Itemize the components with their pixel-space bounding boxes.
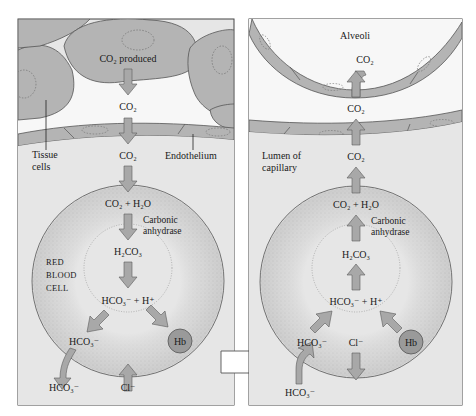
- co2-transport-diagram: Hb CO₂ produced CO₂ CO₂ Tissue cells End…: [0, 0, 476, 416]
- alveoli-label: Alveoli: [340, 30, 370, 41]
- chloride-label: Cl⁻: [121, 382, 136, 393]
- enzyme-label: Carbonic: [371, 216, 406, 226]
- reaction-label: CO₂ + H₂O: [333, 199, 379, 210]
- tissue-cells-label-2: cells: [32, 161, 50, 172]
- dissociation-label: HCO₃⁻ + H⁺: [101, 295, 154, 306]
- co2-label: CO₂: [119, 101, 136, 112]
- lumen-label: Lumen of: [262, 150, 302, 161]
- tissue-panel: Hb CO₂ produced CO₂ CO₂ Tissue cells End…: [12, 19, 234, 405]
- co2-label: CO₂: [119, 150, 136, 161]
- rbc-label: Red: [46, 257, 64, 267]
- chloride-label: Cl⁻: [349, 337, 364, 348]
- endothelium-label: Endothelium: [165, 150, 217, 161]
- rbc-label-3: Cell: [46, 283, 68, 293]
- carbonic-acid-label: H₂CO₃: [114, 246, 142, 257]
- tissue-cells-label: Tissue: [32, 149, 58, 160]
- carbonic-acid-label: H₂CO₃: [342, 249, 370, 260]
- rbc-label-2: Blood: [46, 270, 77, 280]
- enzyme-label-2: anhydrase: [143, 226, 182, 236]
- lumen-label-2: capillary: [262, 162, 297, 173]
- enzyme-label: Carbonic: [143, 215, 178, 225]
- bicarbonate-inside-label: HCO₃⁻: [297, 337, 327, 348]
- reaction-label: CO₂ + H₂O: [105, 198, 151, 209]
- bicarbonate-inside-label: HCO₃⁻: [69, 336, 99, 347]
- hb-label: Hb: [174, 336, 186, 347]
- co2-produced-label: CO₂ produced: [99, 53, 156, 64]
- dissociation-label: HCO₃⁻ + H⁺: [329, 296, 382, 307]
- co2-label: CO₂: [347, 103, 364, 114]
- co2-label: CO₂: [356, 54, 373, 65]
- co2-label: CO₂: [347, 151, 364, 162]
- bicarbonate-outside-label: HCO₃⁻: [49, 382, 79, 393]
- bicarbonate-outside-label: HCO₃⁻: [285, 387, 315, 398]
- enzyme-label-2: anhydrase: [371, 227, 410, 237]
- hb-label: Hb: [405, 337, 417, 348]
- lung-panel: Hb Alveoli CO₂ CO₂ CO₂ Lumen of capillar…: [249, 19, 462, 405]
